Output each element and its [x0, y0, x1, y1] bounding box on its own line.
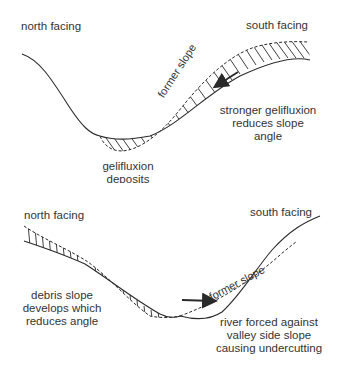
bottom-south-facing-label: south facing [250, 206, 312, 219]
bottom-debris-text: debris slope develops which reduces angl… [20, 289, 104, 328]
bottom-river-arrow [182, 300, 214, 301]
bottom-north-facing-label: north facing [24, 209, 84, 222]
top-explanation-text: stronger gelifluxion reduces slope angle [218, 104, 318, 143]
bottom-river-text: river forced against valley side slope c… [214, 316, 324, 355]
top-deposit-text: gelifluxion deposits [96, 160, 160, 183]
top-south-facing-label: south facing [246, 19, 308, 32]
top-north-facing-label: north facing [21, 20, 81, 33]
